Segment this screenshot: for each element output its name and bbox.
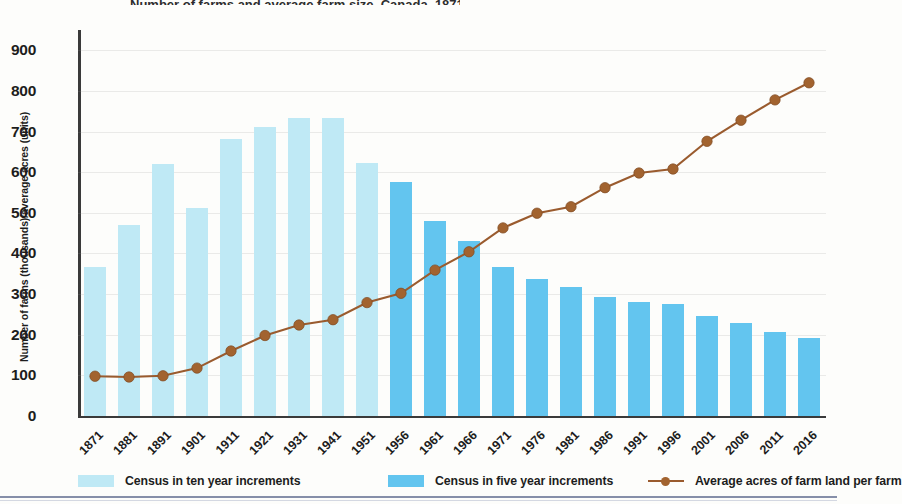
line-marker-1956 (396, 288, 406, 298)
legend-swatch-icon (78, 475, 114, 487)
legend-label: Census in ten year increments (125, 474, 300, 488)
line-marker-1911 (226, 346, 236, 356)
legend-swatch-icon (388, 475, 424, 487)
line-path (95, 83, 809, 377)
page-rule-secondary (0, 500, 837, 501)
y-axis-tick-label: 200 (0, 326, 36, 344)
line-marker-1976 (532, 208, 542, 218)
average-acres-line (78, 30, 826, 416)
y-axis-tick-label: 800 (0, 82, 36, 100)
line-marker-1971 (498, 223, 508, 233)
y-axis-tick-label: 600 (0, 163, 36, 181)
legend-item-1: Census in ten year increments (78, 474, 300, 488)
plot-area: 0100200300400500600700800900 (78, 30, 826, 416)
line-marker-1961 (430, 265, 440, 275)
legend-label: Average acres of farm land per farm (695, 474, 902, 488)
line-marker-1921 (260, 330, 270, 340)
line-marker-2006 (736, 115, 746, 125)
line-marker-2001 (702, 136, 712, 146)
line-marker-1996 (668, 164, 678, 174)
line-marker-2016 (804, 78, 814, 88)
x-axis-ticks: 1871188118911901191119211931194119511956… (78, 420, 826, 466)
line-marker-1991 (634, 168, 644, 178)
line-marker-1966 (464, 247, 474, 257)
line-marker-1941 (328, 315, 338, 325)
chart-title-sliver: Number of farms and average farm size, C… (130, 0, 460, 5)
legend-item-3: Average acres of farm land per farm (648, 474, 902, 488)
chart-legend: Census in ten year incrementsCensus in f… (78, 470, 826, 492)
line-marker-1951 (362, 297, 372, 307)
line-marker-1986 (600, 183, 610, 193)
line-marker-1931 (294, 320, 304, 330)
y-axis-tick-label: 0 (0, 407, 36, 425)
line-series (78, 30, 826, 416)
y-axis-tick-label: 700 (0, 123, 36, 141)
line-marker-1871 (90, 371, 100, 381)
line-marker-1901 (192, 363, 202, 373)
page-rule (0, 496, 837, 498)
line-marker-1881 (124, 372, 134, 382)
y-axis-tick-label: 100 (0, 366, 36, 384)
legend-item-2: Census in five year increments (388, 474, 613, 488)
y-axis-tick-label: 400 (0, 244, 36, 262)
line-marker-1891 (158, 371, 168, 381)
y-axis-tick-label: 900 (0, 41, 36, 59)
line-marker-2011 (770, 95, 780, 105)
y-axis-tick-label: 300 (0, 285, 36, 303)
legend-label: Census in five year increments (435, 474, 613, 488)
legend-line-dot (661, 477, 670, 486)
y-axis-title: Number of farms (thousands)/average acre… (18, 72, 30, 402)
line-marker-1981 (566, 202, 576, 212)
legend-line-marker-icon (648, 475, 684, 487)
y-axis-tick-label: 500 (0, 204, 36, 222)
